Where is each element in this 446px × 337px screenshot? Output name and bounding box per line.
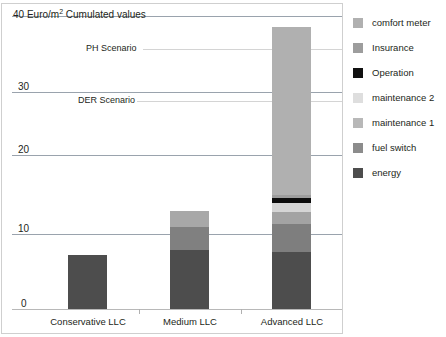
legend-item-fuel-switch[interactable]: fuel switch [353, 135, 445, 160]
xtick-divider-1 [139, 309, 140, 314]
legend-swatch-icon [353, 68, 363, 78]
legend-label: Operation [372, 67, 414, 78]
legend-item-insurance[interactable]: Insurance [353, 35, 445, 60]
bar-segment-energy [170, 250, 209, 309]
bar-advanced-llc[interactable] [272, 27, 311, 309]
ytick-label-20: 20 [18, 145, 29, 155]
ytick-label-30: 30 [18, 82, 29, 92]
ytick-label-10: 10 [18, 224, 29, 234]
bar-segment-maintenance-1 [170, 211, 209, 227]
bar-medium-llc[interactable] [170, 211, 209, 309]
annotation-der-scenario: DER Scenario [78, 95, 135, 105]
legend-item-maintenance-2[interactable]: maintenance 2 [353, 85, 445, 110]
xlabel-advanced-llc: Advanced LLC [242, 316, 342, 327]
legend-swatch-icon [353, 143, 363, 153]
legend-label: comfort meter [372, 17, 431, 28]
xlabel-conservative-llc: Conservative LLC [38, 316, 138, 327]
ytick-label-0: 0 [21, 299, 27, 309]
bar-segment-fuel-switch [272, 224, 311, 252]
legend-item-operation[interactable]: Operation [353, 60, 445, 85]
chart-title: 40 Euro/m2 Cumulated values [13, 6, 146, 20]
legend-swatch-icon [353, 118, 363, 128]
legend-label: Insurance [372, 42, 414, 53]
bar-segment-maintenance-2 [272, 203, 311, 212]
legend-swatch-icon [353, 93, 363, 103]
legend-label: fuel switch [372, 142, 416, 153]
chart-title-main: 40 Euro/m [13, 9, 59, 20]
annotation-ph-scenario: PH Scenario [86, 43, 137, 53]
legend-item-maintenance-1[interactable]: maintenance 1 [353, 110, 445, 135]
bar-segment-comfort-meter [272, 27, 311, 195]
xtick-divider-2 [241, 309, 242, 314]
legend-label: maintenance 1 [372, 117, 434, 128]
legend-item-comfort-meter[interactable]: comfort meter [353, 10, 445, 35]
chart-root: 40 Euro/m2 Cumulated values .chart-title… [0, 0, 446, 337]
xlabel-medium-llc: Medium LLC [140, 316, 240, 327]
bar-segment-energy [68, 255, 107, 309]
gridline-ph-scenario [143, 49, 342, 50]
legend-item-energy[interactable]: energy [353, 160, 445, 185]
bar-conservative-llc[interactable] [68, 255, 107, 309]
bar-segment-fuel-switch [170, 227, 209, 250]
legend-label: energy [372, 167, 401, 178]
bar-segment-maintenance-1 [272, 212, 311, 224]
gridline-der-scenario [137, 101, 342, 102]
legend-swatch-icon [353, 43, 363, 53]
axis-line-zero [12, 309, 342, 310]
legend-label: maintenance 2 [372, 92, 434, 103]
chart-title-rest: Cumulated values [63, 9, 146, 20]
legend-swatch-icon [353, 168, 363, 178]
chart-legend: comfort meter Insurance Operation mainte… [353, 10, 445, 185]
legend-swatch-icon [353, 18, 363, 28]
bar-segment-energy [272, 252, 311, 309]
